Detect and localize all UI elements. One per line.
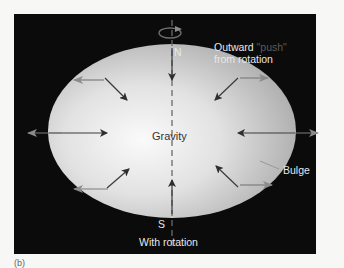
north-label: N bbox=[174, 46, 182, 58]
outward-label-prefix: Outward bbox=[214, 41, 257, 53]
rotation-arrow-icon bbox=[159, 26, 182, 38]
outward-push-label: Outward "push" from rotation bbox=[214, 41, 287, 65]
outward-label-line2: from rotation bbox=[214, 53, 273, 65]
push-word: "push" bbox=[257, 41, 287, 53]
with-rotation-caption: With rotation bbox=[139, 236, 198, 248]
gravity-label: Gravity bbox=[152, 130, 187, 142]
south-label: S bbox=[158, 218, 165, 230]
bulge-label: Bulge bbox=[283, 164, 310, 176]
figure-label: (b) bbox=[14, 258, 25, 268]
